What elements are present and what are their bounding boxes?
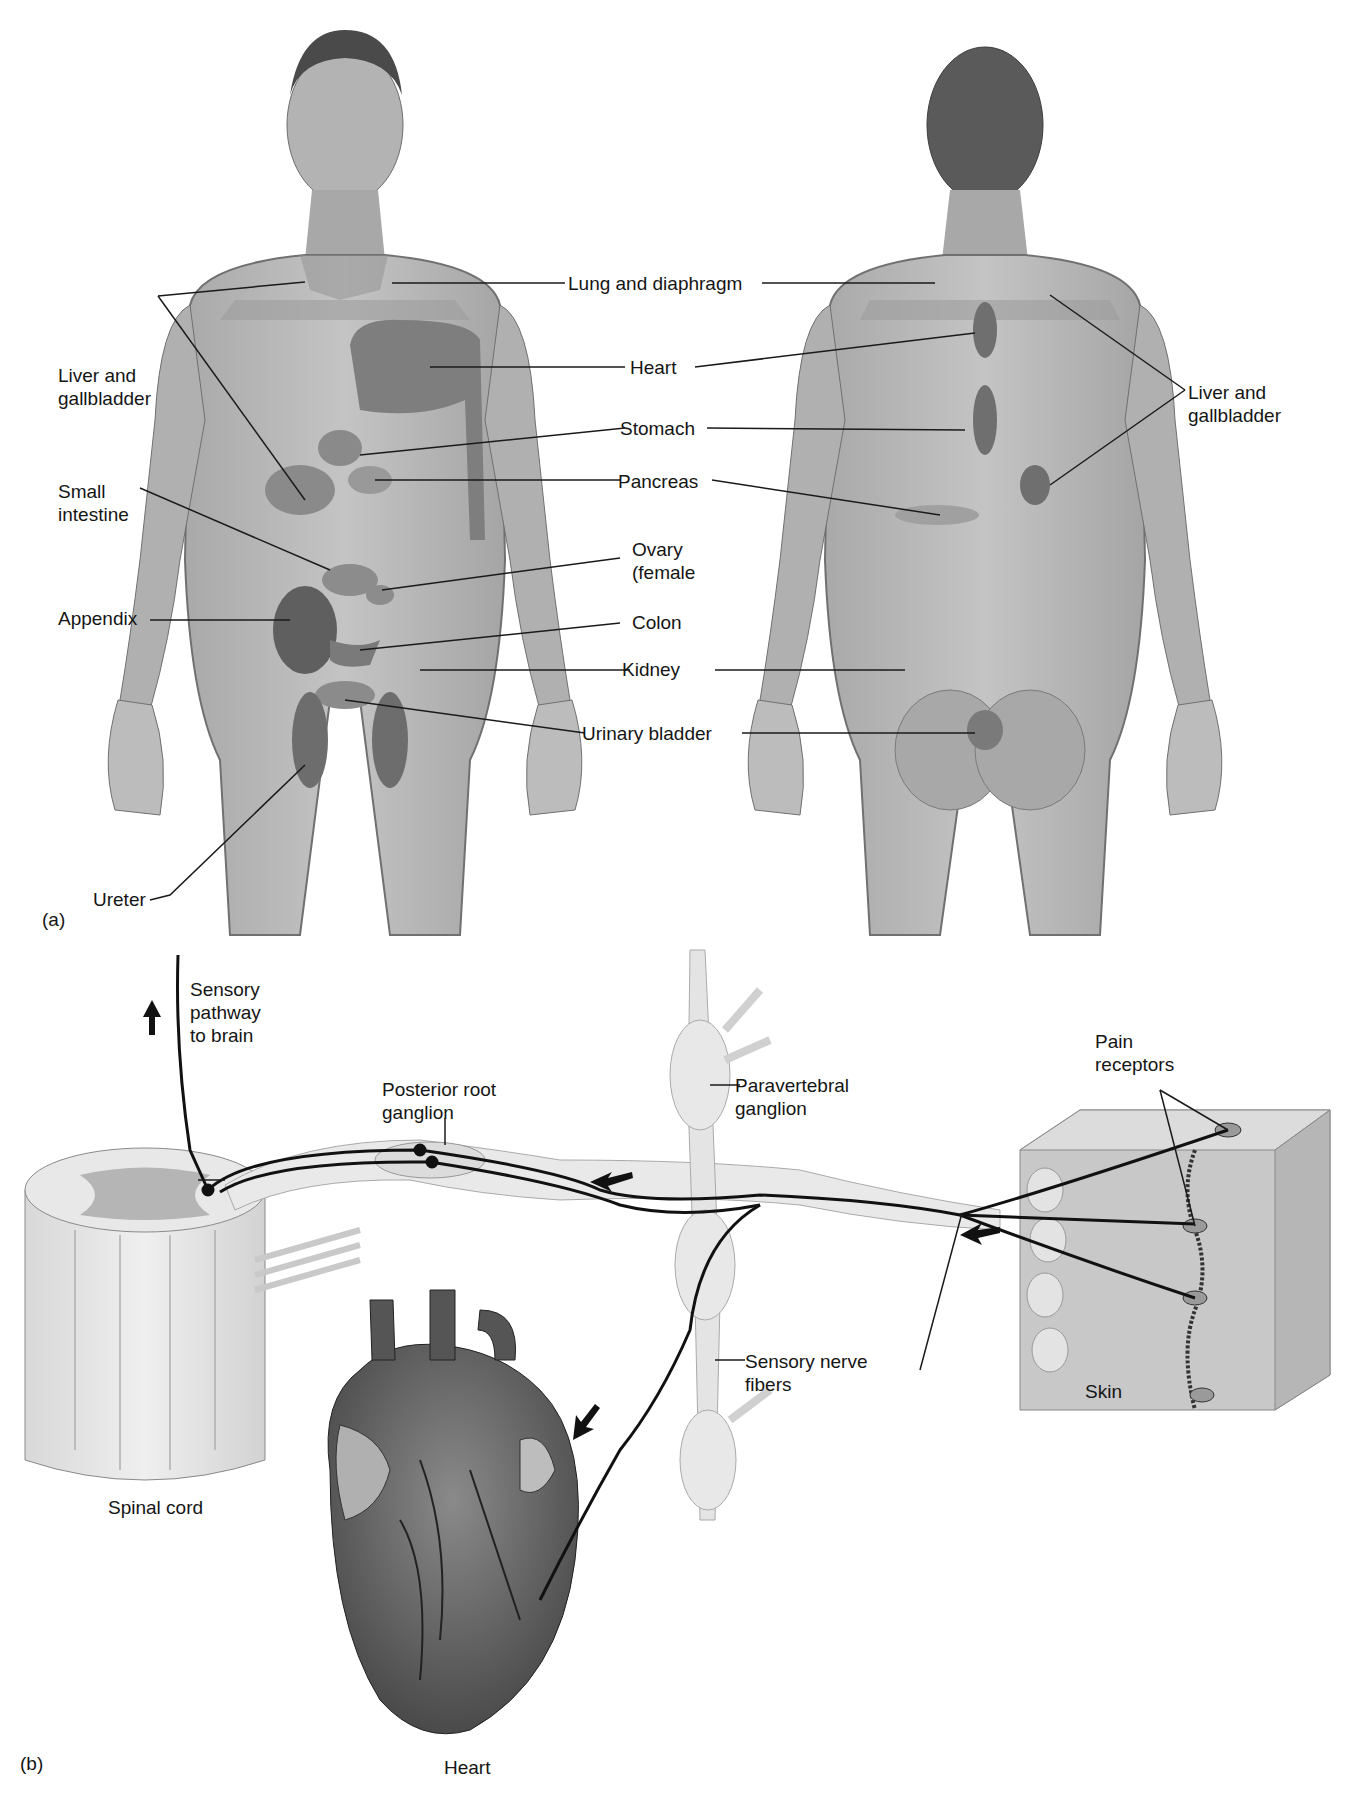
label-liver-gallbladder-front: Liver and gallbladder bbox=[58, 364, 151, 410]
label-pain-receptors: Pain receptors bbox=[1095, 1030, 1174, 1076]
label-paravertebral-ganglion: Paravertebral ganglion bbox=[735, 1074, 849, 1120]
paravertebral-chain bbox=[670, 950, 770, 1520]
illustration-canvas bbox=[0, 0, 1350, 1801]
label-lung-diaphragm: Lung and diaphragm bbox=[568, 272, 742, 295]
spinal-cord-illustration bbox=[25, 1148, 360, 1480]
back-body-figure bbox=[748, 47, 1222, 935]
label-sensory-nerve-fibers: Sensory nerve fibers bbox=[745, 1350, 868, 1396]
label-liver-gallbladder-back: Liver and gallbladder bbox=[1188, 381, 1281, 427]
label-stomach: Stomach bbox=[620, 417, 695, 440]
direction-arrows bbox=[143, 1000, 1000, 1440]
label-ovary: Ovary (female bbox=[632, 538, 695, 584]
label-heart-referred: Heart bbox=[630, 356, 676, 379]
label-urinary-bladder: Urinary bladder bbox=[582, 722, 712, 745]
skin-block-illustration bbox=[1020, 1110, 1330, 1410]
label-colon: Colon bbox=[632, 611, 682, 634]
label-heart: Heart bbox=[444, 1756, 490, 1779]
label-ureter: Ureter bbox=[93, 888, 146, 911]
label-kidney: Kidney bbox=[622, 658, 680, 681]
label-pancreas: Pancreas bbox=[618, 470, 698, 493]
label-spinal-cord: Spinal cord bbox=[108, 1496, 203, 1519]
label-small-intestine: Small intestine bbox=[58, 480, 129, 526]
label-posterior-root-ganglion: Posterior root ganglion bbox=[382, 1078, 496, 1124]
label-appendix: Appendix bbox=[58, 607, 137, 630]
panel-a-marker: (a) bbox=[42, 908, 65, 931]
panel-b-marker: (b) bbox=[20, 1752, 43, 1775]
arrow-up-right-icon bbox=[573, 1404, 600, 1440]
arrow-up-icon bbox=[143, 1000, 161, 1035]
heart-illustration bbox=[328, 1290, 578, 1734]
label-sensory-pathway: Sensory pathway to brain bbox=[190, 978, 261, 1047]
label-skin: Skin bbox=[1085, 1380, 1122, 1403]
front-body-figure bbox=[108, 30, 582, 935]
